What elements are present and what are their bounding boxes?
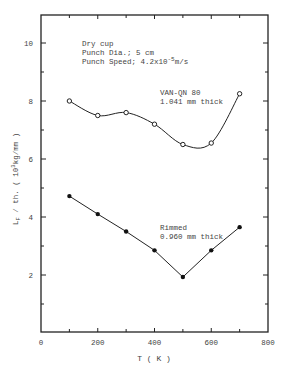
x-tick-label: 0 — [39, 339, 44, 347]
data-point — [96, 113, 100, 117]
data-point — [67, 99, 71, 103]
data-point — [181, 275, 185, 279]
data-point — [124, 229, 128, 233]
annotation-dry-cup: Dry cup — [82, 40, 114, 48]
y-tick-label: 8 — [28, 98, 33, 106]
data-point — [124, 110, 128, 114]
y-tick-label: 10 — [24, 40, 34, 48]
y-axis-title: LF / th. ( 103kg/mm ) — [10, 133, 22, 225]
data-point — [209, 141, 213, 145]
annotation-punch-dia: Punch Dia.; 5 cm — [82, 49, 155, 57]
y-tick-label: 2 — [28, 272, 33, 280]
y-tick-label: 4 — [28, 214, 33, 222]
label-rimmed: Rimmed — [160, 224, 187, 232]
y-tick-labels: 246810 — [24, 40, 34, 280]
chart: 0200400600800 246810 Dry cup Punch Dia.;… — [0, 0, 287, 371]
data-point — [209, 248, 213, 252]
data-point — [237, 92, 241, 96]
data-point — [152, 248, 156, 252]
annotation-punch-speed: Punch Speed; 4.2x10-5m/s — [82, 56, 188, 66]
x-tick-labels: 0200400600800 — [39, 339, 276, 347]
y-tick-label: 6 — [28, 156, 33, 164]
label-van-qn80: VAN-QN 80 — [160, 89, 201, 97]
data-point — [96, 212, 100, 216]
x-tick-label: 800 — [261, 339, 275, 347]
x-tick-label: 400 — [148, 339, 162, 347]
label-van-qn80-thickness: 1.041 mm thick — [160, 98, 224, 106]
data-point — [237, 225, 241, 229]
data-point — [181, 142, 185, 146]
x-tick-label: 200 — [91, 339, 105, 347]
x-axis-title: T ( K ) — [137, 354, 171, 363]
data-point — [67, 194, 71, 198]
label-rimmed-thickness: 0.960 mm thick — [160, 233, 224, 241]
data-point — [152, 122, 156, 126]
x-tick-label: 600 — [204, 339, 218, 347]
